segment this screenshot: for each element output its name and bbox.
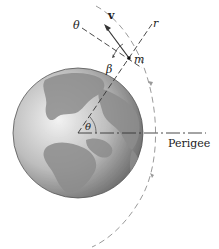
velocity-label: v — [107, 9, 115, 22]
orbit-arrow-icon — [148, 81, 153, 86]
orbit-diagram: θ v r m β θ Perigee — [0, 0, 219, 249]
beta-angle-arc — [114, 44, 123, 55]
velocity-arrowhead-icon — [104, 24, 111, 31]
theta-angle-label: θ — [85, 121, 91, 132]
orbit-arrow-icon — [150, 173, 154, 178]
theta-axis-line — [82, 28, 142, 68]
beta-label: β — [105, 63, 112, 76]
radial-axis-label: r — [153, 17, 159, 30]
velocity-vector — [106, 27, 129, 58]
mass-label: m — [134, 53, 144, 66]
perigee-label: Perigee — [168, 137, 210, 150]
satellite-mass-point — [128, 57, 131, 60]
theta-axis-label: θ — [73, 19, 80, 32]
